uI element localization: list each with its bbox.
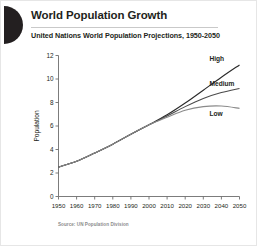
y-axis-title: Population bbox=[33, 110, 41, 141]
svg-text:2000: 2000 bbox=[142, 202, 156, 209]
chart-series-labels: HighMediumLow bbox=[210, 55, 235, 116]
svg-text:2020: 2020 bbox=[178, 202, 192, 209]
series-line-medium bbox=[59, 88, 240, 167]
half-circle-logo-icon bbox=[4, 6, 23, 44]
svg-text:0: 0 bbox=[50, 193, 54, 200]
svg-text:1970: 1970 bbox=[88, 202, 102, 209]
chart-axes bbox=[59, 56, 240, 197]
chart-container: 024681012 195019601970198019902000201020… bbox=[1, 47, 257, 219]
page-title: World Population Growth bbox=[31, 9, 167, 21]
svg-text:6: 6 bbox=[50, 122, 54, 129]
population-line-chart: 024681012 195019601970198019902000201020… bbox=[1, 47, 257, 219]
svg-text:12: 12 bbox=[46, 52, 54, 59]
svg-text:8: 8 bbox=[50, 99, 54, 106]
svg-text:4: 4 bbox=[50, 146, 54, 153]
y-axis-ticks: 024681012 bbox=[46, 52, 58, 200]
svg-text:1980: 1980 bbox=[106, 202, 120, 209]
svg-text:2050: 2050 bbox=[233, 202, 247, 209]
title-divider bbox=[31, 27, 218, 28]
svg-text:2010: 2010 bbox=[160, 202, 174, 209]
svg-text:10: 10 bbox=[46, 75, 54, 82]
x-axis-ticks: 1950196019701980199020002010202020302040… bbox=[52, 197, 247, 209]
page-subtitle: United Nations World Population Projecti… bbox=[31, 31, 220, 40]
series-label-low: Low bbox=[210, 110, 224, 117]
series-label-high: High bbox=[210, 55, 225, 63]
source-note: Source: UN Population Division bbox=[58, 222, 129, 227]
card-header: World Population Growth United Nations W… bbox=[1, 1, 257, 47]
series-label-medium: Medium bbox=[210, 80, 235, 87]
svg-text:1960: 1960 bbox=[70, 202, 84, 209]
svg-text:1990: 1990 bbox=[124, 202, 138, 209]
svg-text:2: 2 bbox=[50, 169, 54, 176]
svg-text:2040: 2040 bbox=[215, 202, 229, 209]
infographic-card: World Population Growth United Nations W… bbox=[0, 0, 257, 246]
svg-text:2030: 2030 bbox=[197, 202, 211, 209]
svg-text:1950: 1950 bbox=[52, 202, 66, 209]
